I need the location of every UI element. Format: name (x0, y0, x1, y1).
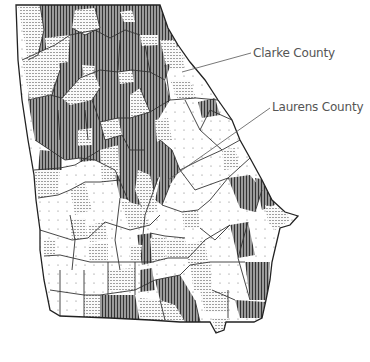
clarke-county-label: Clarke County (253, 46, 335, 60)
clarke-county-leader-line (182, 53, 251, 72)
laurens-county-label: Laurens County (272, 100, 363, 114)
